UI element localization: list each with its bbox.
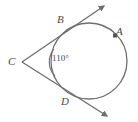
label-point-b: B — [57, 14, 64, 25]
label-point-a: A — [116, 26, 123, 37]
geometry-figure: C B A D 110° — [0, 0, 138, 122]
label-point-c: C — [8, 56, 15, 67]
geometry-canvas — [0, 0, 138, 122]
label-point-d: D — [61, 96, 69, 107]
tangent-ray-cd — [22, 62, 107, 116]
label-angle-measure: 110° — [52, 54, 69, 63]
